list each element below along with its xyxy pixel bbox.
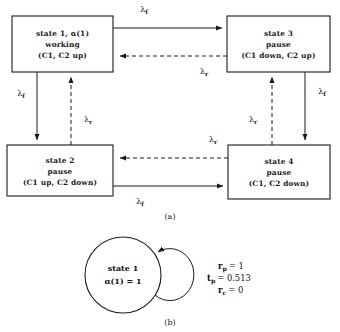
state-box-state4[interactable]: state 4 pause (C1, C2 down) bbox=[228, 145, 330, 199]
state1-circle bbox=[85, 237, 161, 313]
rate-label-t4-3: λr bbox=[249, 115, 258, 125]
state-box-state2[interactable]: state 2 pause (C1 up, C2 down) bbox=[7, 145, 113, 196]
rate-label-t3-1: λr bbox=[200, 67, 209, 77]
transition-state3-to-state1[interactable]: λr bbox=[120, 56, 227, 77]
state-node-b-state1[interactable]: state 1 α(1) = 1 bbox=[85, 237, 161, 313]
state1-line-1: state 1, α(1) bbox=[36, 29, 89, 38]
figure-container: state 1, α(1) working (C1, C2 up) state … bbox=[0, 0, 340, 332]
state1-line-2: working bbox=[44, 40, 80, 49]
state-box-state3[interactable]: state 3 pause (C1 down, C2 up) bbox=[227, 16, 330, 72]
state-diagram-svg: state 1, α(1) working (C1, C2 up) state … bbox=[0, 0, 340, 332]
state4-line-2: pause bbox=[267, 168, 292, 177]
parameter-rc: rc= 0 bbox=[218, 285, 243, 296]
state3-line-3: (C1 down, C2 up) bbox=[241, 51, 315, 60]
b-state1-line-1: state 1 bbox=[108, 263, 139, 273]
transition-state4-to-state2[interactable]: λr bbox=[120, 135, 228, 158]
rate-label-t2-1: λr bbox=[84, 115, 93, 125]
state2-line-3: (C1 up, C2 down) bbox=[23, 178, 97, 187]
panel-label-b: (b) bbox=[164, 318, 175, 327]
state1-line-3: (C1, C2 up) bbox=[38, 51, 87, 60]
b-state1-line-2: α(1) = 1 bbox=[104, 276, 141, 286]
state3-line-1: state 3 bbox=[264, 29, 293, 38]
transition-state1-to-state2[interactable]: λf bbox=[17, 72, 37, 140]
state3-line-2: pause bbox=[266, 40, 291, 49]
transition-state2-to-state1[interactable]: λr bbox=[71, 77, 93, 145]
state4-line-3: (C1, C2 down) bbox=[249, 179, 310, 188]
transition-state2-to-state4[interactable]: λf bbox=[113, 186, 223, 207]
rate-label-t4-2: λr bbox=[209, 135, 218, 145]
state2-line-2: pause bbox=[48, 167, 73, 176]
state2-line-1: state 2 bbox=[45, 156, 74, 165]
parameter-rp: rp= 1 bbox=[218, 261, 244, 273]
transition-state3-to-state4[interactable]: λf bbox=[305, 72, 326, 140]
rate-label-t3-4: λf bbox=[318, 87, 326, 97]
state-box-state1[interactable]: state 1, α(1) working (C1, C2 up) bbox=[12, 16, 113, 72]
parameter-list: rp= 1 tp= 0.513 rc= 0 bbox=[207, 261, 251, 296]
state4-line-1: state 4 bbox=[264, 157, 293, 166]
rate-label-t1-2: λf bbox=[17, 89, 25, 99]
rate-label-t2-4: λf bbox=[136, 197, 144, 207]
transition-state1-to-state3[interactable]: λf bbox=[113, 5, 222, 28]
rate-label-t1-3: λf bbox=[140, 5, 148, 15]
transition-state4-to-state3[interactable]: λr bbox=[249, 77, 272, 145]
parameter-tp: tp= 0.513 bbox=[207, 273, 251, 285]
panel-label-a: (a) bbox=[164, 212, 175, 221]
